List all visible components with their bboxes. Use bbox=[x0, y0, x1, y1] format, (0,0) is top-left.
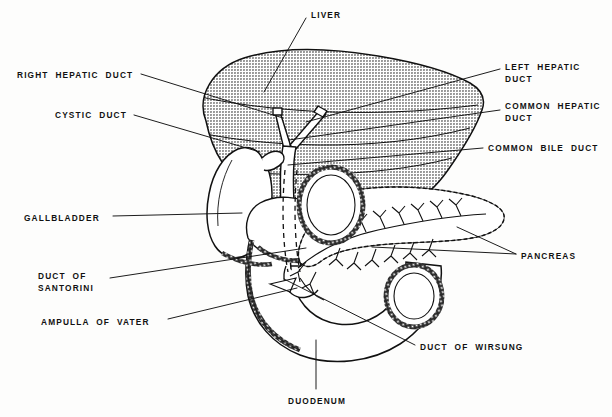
label-gallbladder: GALLBLADDER bbox=[24, 213, 100, 225]
diagram-page: LIVER RIGHT HEPATIC DUCT LEFT HEPATIC DU… bbox=[0, 0, 612, 417]
label-duct-of-santorini: DUCT OF SANTORINI bbox=[38, 271, 94, 294]
label-pancreas: PANCREAS bbox=[521, 251, 576, 263]
label-duct-of-wirsung: DUCT OF WIRSUNG bbox=[420, 342, 523, 354]
label-duodenum: DUODENUM bbox=[288, 396, 346, 408]
label-common-bile-duct: COMMON BILE DUCT bbox=[488, 143, 599, 155]
label-right-hepatic-duct: RIGHT HEPATIC DUCT bbox=[17, 70, 133, 82]
label-cystic-duct: CYSTIC DUCT bbox=[55, 110, 127, 122]
lumen-ring-lower bbox=[386, 265, 442, 327]
label-common-hepatic-duct: COMMON HEPATIC DUCT bbox=[505, 101, 601, 124]
label-left-hepatic-duct: LEFT HEPATIC DUCT bbox=[505, 62, 580, 85]
label-ampulla-of-vater: AMPULLA OF VATER bbox=[41, 317, 150, 329]
lumen-ring-upper bbox=[299, 167, 363, 243]
label-liver: LIVER bbox=[311, 10, 341, 22]
leader-pancreas-lower bbox=[372, 247, 516, 254]
